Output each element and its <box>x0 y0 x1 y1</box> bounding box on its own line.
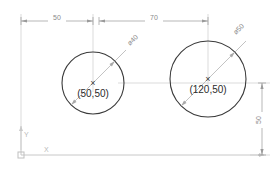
circle-right-leader-extension <box>235 41 246 52</box>
circle-left-diameter-label: ø40 <box>126 33 140 47</box>
extension-lines-group <box>21 14 270 155</box>
dim-label-70: 70 <box>150 14 158 21</box>
dim-label-vertical-50: 50 <box>255 116 262 124</box>
dim-label-50: 50 <box>53 14 61 21</box>
dimension-horizontal-50: 50 <box>21 12 93 25</box>
dimension-horizontal-70: 70 <box>99 12 208 25</box>
drawing-viewport: X Y 50 <box>0 0 280 173</box>
circle-left-center-mark: × <box>90 78 95 88</box>
circle-right-center-label: (120,50) <box>189 84 226 95</box>
dim-arrowhead-70-left <box>99 19 105 22</box>
dim-arrowhead-50-right <box>87 19 93 22</box>
ucs-axes-group: X Y <box>18 126 264 158</box>
circle-left-center-label: (50,50) <box>77 88 109 99</box>
y-axis-label: Y <box>24 131 29 138</box>
circle-right-diameter-label: ø50 <box>232 22 246 36</box>
dimension-vertical-50: 50 <box>255 83 267 155</box>
circle-left-group[interactable]: × (50,50) ø40 <box>62 33 139 114</box>
circle-right-center-mark: × <box>205 74 210 84</box>
x-axis-label: X <box>44 146 49 153</box>
cad-drawing-canvas: X Y 50 <box>0 0 280 173</box>
dim-arrowhead-50-left <box>21 19 27 22</box>
circle-left-leader-extension <box>115 50 126 61</box>
dim-arrowhead-70-right <box>202 19 208 22</box>
dim-arrowhead-vertical-50-top <box>260 83 263 89</box>
